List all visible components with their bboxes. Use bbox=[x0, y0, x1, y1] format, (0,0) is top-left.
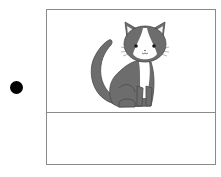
answer-box[interactable] bbox=[47, 113, 215, 164]
image-cell bbox=[47, 10, 215, 113]
bullet-point bbox=[10, 81, 23, 94]
picture-card bbox=[46, 9, 216, 165]
cat-illustration bbox=[85, 18, 175, 110]
